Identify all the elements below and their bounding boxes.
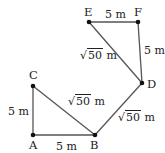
- label-d: D: [147, 79, 156, 91]
- length-ac: 5 m: [8, 106, 29, 117]
- point-e: [87, 20, 92, 25]
- segment-bd: [95, 83, 142, 135]
- point-a: [31, 133, 36, 138]
- figure-canvas: [0, 0, 165, 153]
- unit: m: [103, 49, 117, 62]
- label-b: B: [90, 140, 98, 152]
- unit: m: [141, 111, 155, 124]
- point-d: [140, 81, 145, 86]
- sqrt-sign: √: [68, 95, 75, 108]
- radicand: 50: [75, 94, 91, 108]
- point-b: [93, 133, 98, 138]
- length-de: √50 m: [80, 50, 117, 61]
- sqrt-sign: √: [118, 111, 125, 124]
- unit: m: [91, 95, 105, 108]
- length-ab: 5 m: [56, 141, 77, 152]
- sqrt-sign: √: [80, 49, 87, 62]
- radicand: 50: [87, 48, 103, 62]
- length-cb: √50 m: [68, 96, 105, 107]
- geometry-figure: A B C D E F 5 m 5 m 5 m 5 m √50 m √50 m …: [0, 0, 165, 153]
- point-f: [136, 20, 141, 25]
- label-f: F: [134, 7, 142, 19]
- segment-fd: [138, 22, 142, 83]
- point-c: [31, 84, 36, 89]
- length-fd: 5 m: [144, 45, 165, 56]
- label-e: E: [84, 7, 92, 19]
- label-a: A: [29, 140, 37, 152]
- length-bd: √50 m: [118, 112, 155, 123]
- label-c: C: [29, 70, 38, 82]
- length-ef: 5 m: [105, 9, 126, 20]
- radicand: 50: [125, 110, 141, 124]
